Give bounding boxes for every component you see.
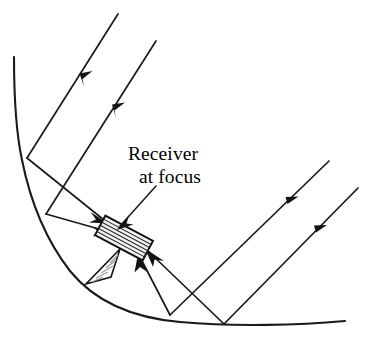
- reflected-ray-4: [145, 249, 224, 325]
- incoming-ray-2: [46, 41, 156, 214]
- receiver-leader-line: [117, 186, 157, 230]
- ray-1-arrowhead: [80, 71, 93, 87]
- ray-4-arrowhead: [314, 225, 327, 240]
- receiver-label-line2: at focus: [139, 166, 201, 187]
- support-wedge: [86, 249, 120, 284]
- receiver-label-line1: Receiver: [128, 143, 198, 164]
- diagram-root: Receiver at focus: [0, 0, 370, 351]
- incoming-ray-1: [27, 14, 118, 158]
- incoming-ray-4: [224, 188, 358, 324]
- ray-2-arrowhead: [112, 103, 125, 119]
- reflected-ray-1: [27, 158, 108, 224]
- parabolic-reflector-curve: [14, 57, 345, 325]
- parabolic-concentrator-figure: Receiver at focus: [0, 0, 370, 351]
- ray-3-arrowhead: [286, 197, 299, 212]
